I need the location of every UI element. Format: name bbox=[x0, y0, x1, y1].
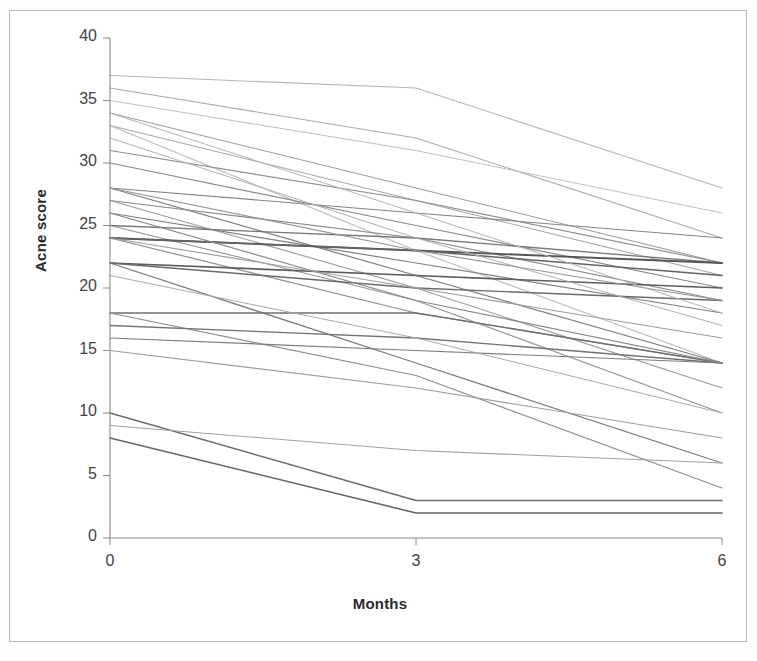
series-line bbox=[110, 226, 722, 414]
series-lines bbox=[110, 76, 722, 514]
series-line bbox=[110, 113, 722, 263]
y-axis-title: Acne score bbox=[32, 161, 49, 301]
x-tick-label: 0 bbox=[95, 552, 125, 570]
series-line bbox=[110, 263, 722, 288]
y-tick-label: 20 bbox=[63, 277, 97, 295]
y-tick-label: 35 bbox=[63, 90, 97, 108]
x-tick-label: 3 bbox=[401, 552, 431, 570]
x-axis-title: Months bbox=[260, 595, 500, 612]
series-line bbox=[110, 163, 722, 288]
y-tick-label: 15 bbox=[63, 340, 97, 358]
series-line bbox=[110, 76, 722, 189]
x-tick-label: 6 bbox=[707, 552, 737, 570]
y-tick-label: 10 bbox=[63, 402, 97, 420]
y-tick-label: 25 bbox=[63, 215, 97, 233]
y-tick-label: 30 bbox=[63, 152, 97, 170]
y-tick-label: 40 bbox=[63, 27, 97, 45]
y-tick-label: 5 bbox=[63, 465, 97, 483]
series-line bbox=[110, 413, 722, 501]
series-line bbox=[110, 213, 722, 313]
y-tick-label: 0 bbox=[63, 527, 97, 545]
figure-canvas: 0510152025303540 036 Acne score Months bbox=[0, 0, 757, 661]
series-line bbox=[110, 313, 722, 488]
series-line bbox=[110, 438, 722, 513]
series-line bbox=[110, 338, 722, 363]
series-line bbox=[110, 113, 722, 313]
series-line bbox=[110, 101, 722, 214]
series-line bbox=[110, 426, 722, 464]
